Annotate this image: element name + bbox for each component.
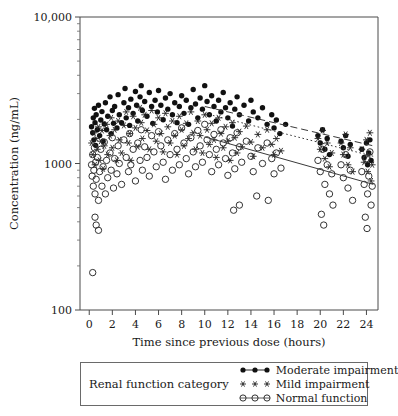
data-point-filled-circle [216,98,221,103]
data-point-open-circle [174,146,180,152]
data-point-open-circle [130,146,136,152]
data-point-filled-circle [152,98,157,103]
data-point-open-circle [92,191,98,197]
legend-item-normal: Normal function [237,392,398,405]
data-point-open-circle [318,211,324,217]
data-point-open-circle [345,185,351,191]
data-point-filled-circle [121,100,126,105]
data-point-filled-circle [124,115,129,120]
data-point-open-circle [153,164,159,170]
data-point-asterisk [201,112,208,118]
data-point-filled-circle [112,104,117,109]
data-point-open-circle [138,127,144,133]
data-point-open-circle [208,168,214,174]
data-point-open-circle [206,151,212,157]
data-point-open-circle [347,167,353,173]
x-tick-label: 12 [221,318,235,331]
data-point-filled-circle [230,123,235,128]
data-point-open-circle [123,154,129,160]
data-point-open-circle [144,154,150,160]
data-point-filled-circle [223,105,228,110]
x-tick-label: 24 [359,318,373,331]
x-tick-label: 0 [86,318,93,331]
data-point-filled-circle [274,117,279,122]
data-point-filled-circle [170,112,175,117]
data-point-open-circle [183,155,189,161]
data-point-asterisk [268,141,275,147]
data-point-asterisk [248,139,255,145]
data-point-open-circle [265,197,271,203]
data-point-asterisk [367,130,374,136]
x-tick-label: 18 [290,318,304,331]
data-point-asterisk [164,124,171,130]
data-point-open-circle [326,191,332,197]
data-point-filled-circle [107,94,112,99]
data-point-open-circle [218,127,224,133]
data-point-filled-circle [251,109,256,114]
data-point-open-circle [330,202,336,208]
data-point-asterisk [254,131,261,137]
data-point-filled-circle [172,100,177,105]
data-point-open-circle [128,162,134,168]
data-point-open-circle [192,164,198,170]
data-point-filled-circle [165,106,170,111]
data-point-open-circle [118,181,124,187]
data-point-filled-circle [248,98,253,103]
data-point-asterisk [264,127,271,133]
data-point-filled-circle [96,103,101,108]
data-point-open-circle [264,140,270,146]
data-point-open-circle [250,168,256,174]
data-point-filled-circle [122,86,127,91]
data-point-filled-circle [104,127,109,132]
data-point-open-circle [137,157,143,163]
x-tick-label: 22 [336,318,350,331]
data-point-open-circle [243,138,249,144]
data-point-open-circle [259,160,265,166]
x-tick-label: 4 [132,318,139,331]
data-point-filled-circle [155,109,160,114]
data-point-open-circle [141,144,147,150]
data-point-filled-circle [315,133,320,138]
legend-key-open-circle [237,392,273,404]
data-point-filled-circle [177,104,182,109]
data-point-open-circle [132,178,138,184]
x-tick-label: 16 [267,318,281,331]
data-point-filled-circle [227,100,232,105]
data-point-open-circle [239,159,245,165]
data-point-open-circle [271,171,277,177]
data-point-filled-circle [128,96,133,101]
data-point-filled-circle [167,91,172,96]
data-point-filled-circle [156,88,161,93]
data-point-filled-circle [277,131,282,136]
data-point-open-circle [125,168,131,174]
data-point-filled-circle [158,103,163,108]
data-point-asterisk [160,149,167,155]
data-point-open-circle [167,151,173,157]
x-tick-label: 6 [155,318,162,331]
data-point-filled-circle [197,95,202,100]
y-tick-label: 1000 [44,158,72,171]
legend-title: Renal function category [81,377,229,391]
data-point-open-circle [151,149,157,155]
data-point-asterisk [321,156,328,162]
x-tick-label: 2 [109,318,116,331]
data-point-open-circle [165,137,171,143]
legend-key-asterisk [237,378,273,390]
data-point-filled-circle [341,145,346,150]
data-point-open-circle [211,131,217,137]
data-point-open-circle [110,185,116,191]
data-point-asterisk [213,154,220,160]
data-point-open-circle [195,127,201,133]
data-point-filled-circle [269,112,274,117]
data-point-filled-circle [195,115,200,120]
data-point-asterisk [199,150,206,156]
data-point-open-circle [90,269,96,275]
data-point-open-circle [273,150,279,156]
data-point-open-circle [115,143,121,149]
data-point-open-circle [225,172,231,178]
data-point-filled-circle [126,105,131,110]
data-point-filled-circle [241,103,246,108]
data-point-open-circle [278,165,284,171]
data-point-open-circle [90,183,96,189]
data-point-open-circle [364,191,370,197]
